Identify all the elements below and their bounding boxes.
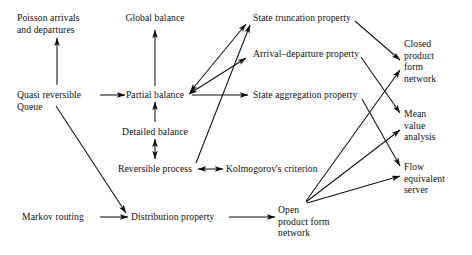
node-detailed-balance: Detailed balance — [122, 126, 188, 138]
edge-partial-arrival — [189, 58, 246, 94]
node-state-truncation-property: State truncation property — [253, 12, 351, 24]
node-state-aggregation-property: State aggregation property — [253, 89, 357, 101]
node-quasi-reversible-queue: Quasi reversible Queue — [17, 89, 81, 112]
node-distribution-property: Distribution property — [131, 211, 214, 223]
node-partial-balance: Partial balance — [126, 89, 184, 101]
edge-aggregation-flow — [362, 99, 400, 166]
flow-diagram: Poisson arrivals and departures Global b… — [0, 0, 472, 255]
node-closed-product-form-network: Closed product form network — [404, 38, 436, 84]
node-reversible-process: Reversible process — [118, 163, 192, 175]
edge-arrival-mean — [361, 57, 400, 113]
node-mean-value-analysis: Mean value analysis — [404, 108, 436, 143]
edge-open-mean — [306, 130, 400, 202]
node-kolmogorovs-criterion: Kolmogorov's criterion — [226, 163, 318, 175]
node-markov-routing: Markov routing — [22, 211, 84, 223]
edge-quasi-distribution — [56, 106, 126, 213]
edge-truncation-closed — [355, 21, 400, 60]
node-global-balance: Global balance — [125, 12, 184, 24]
node-arrival-departure-property: Arrival–departure property — [253, 48, 359, 60]
edge-reversible-truncation — [196, 25, 250, 163]
node-poisson-arrivals-and-departures: Poisson arrivals and departures — [17, 12, 80, 35]
node-flow-equivalent-server: Flow equivalent server — [404, 161, 445, 196]
node-open-product-form-network: Open product form network — [278, 204, 330, 239]
